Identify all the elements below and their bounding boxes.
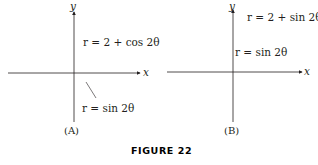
x-axis-label-b: x <box>304 65 310 77</box>
x-axis-label-a: x <box>143 66 149 78</box>
outer-curve-label-b: r = 2 + sin 2θ <box>247 11 318 23</box>
inner-curve-label-b: r = sin 2θ <box>235 46 287 58</box>
inner-curve-label-a: r = sin 2θ <box>82 102 134 114</box>
figure-title: FIGURE 22 <box>131 145 192 156</box>
caption-b: (B) <box>224 125 239 136</box>
y-axis-label-b: y <box>228 0 236 12</box>
panel-a: x y r = 2 + cos 2θ r = sin 2θ <box>8 0 160 122</box>
outer-curve-label-a: r = 2 + cos 2θ <box>83 36 160 48</box>
y-axis-label-a: y <box>69 0 77 12</box>
leader-line-a <box>86 82 96 98</box>
caption-a: (A) <box>64 125 79 136</box>
panel-b: x y r = 2 + sin 2θ r = sin 2θ <box>167 0 318 122</box>
figure-canvas: x y r = 2 + cos 2θ r = sin 2θ x y r = 2 … <box>0 0 318 165</box>
